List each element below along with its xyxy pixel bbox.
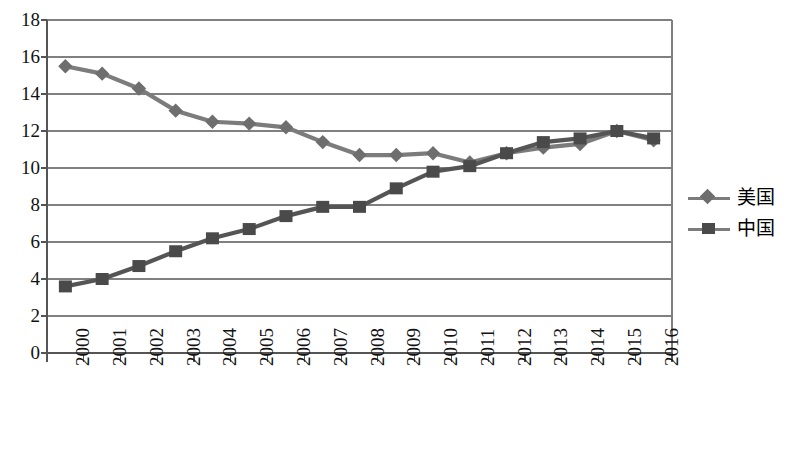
x-axis-tick-labels: 2000200120022003200420052006200720082009… (0, 0, 804, 451)
x-tick-label: 2016 (662, 328, 681, 366)
x-tick-label: 2012 (515, 328, 534, 366)
x-tick-label: 2005 (257, 328, 276, 366)
chart-legend: 美国 中国 (688, 182, 800, 244)
x-tick-label: 2002 (147, 328, 166, 366)
line-chart: 181614121086420 200020012002200320042005… (0, 0, 804, 451)
diamond-marker-icon (688, 191, 730, 205)
x-tick-label: 2001 (110, 328, 129, 366)
x-tick-label: 2000 (73, 328, 92, 366)
square-marker-icon (688, 222, 730, 236)
legend-item-cn[interactable]: 中国 (688, 213, 800, 244)
x-tick-label: 2011 (478, 329, 497, 366)
x-tick-label: 2010 (441, 328, 460, 366)
legend-label-us: 美国 (737, 188, 775, 207)
x-tick-label: 2007 (331, 328, 350, 366)
x-tick-label: 2015 (625, 328, 644, 366)
x-tick-label: 2003 (184, 328, 203, 366)
x-tick-label: 2014 (588, 328, 607, 366)
legend-label-cn: 中国 (737, 219, 775, 238)
x-tick-label: 2008 (368, 328, 387, 366)
x-tick-label: 2004 (220, 328, 239, 366)
x-tick-label: 2013 (551, 328, 570, 366)
legend-item-us[interactable]: 美国 (688, 182, 800, 213)
x-tick-label: 2006 (294, 328, 313, 366)
x-tick-label: 2009 (404, 328, 423, 366)
